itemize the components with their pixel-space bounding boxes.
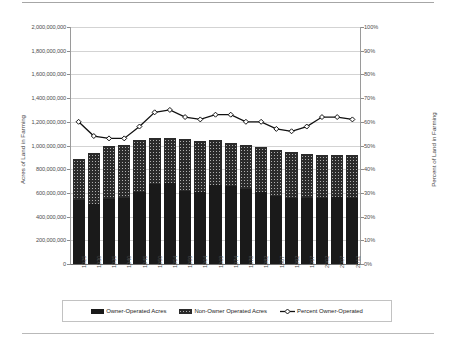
- y-axis-left-tick: 600,000,000: [36, 190, 66, 196]
- y-axis-right-tick: 70%: [364, 95, 375, 101]
- line-marker: [243, 119, 248, 124]
- line-marker: [350, 117, 355, 122]
- x-axis-tick: 1997: [309, 256, 315, 268]
- x-axis-tick: 2002: [324, 256, 330, 268]
- y-axis-right-tick-mark: [361, 146, 364, 147]
- y-axis-left: 0200,000,000400,000,000600,000,000800,00…: [0, 0, 66, 340]
- line-marker: [167, 107, 172, 112]
- x-axis-tick: 1978: [248, 256, 254, 268]
- y-axis-right: 0%10%20%30%40%50%60%70%80%90%100%: [364, 0, 424, 340]
- y-axis-left-tick: 1,000,000,000: [32, 143, 66, 149]
- y-axis-right-tick: 20%: [364, 214, 375, 220]
- x-axis-tick: 1969: [218, 256, 224, 268]
- y-axis-left-tick-mark: [67, 98, 70, 99]
- y-axis-right-title: Percent of Land in Farming: [430, 95, 437, 205]
- x-axis-tick: 1940: [126, 256, 132, 268]
- x-axis-tick: 1945: [142, 256, 148, 268]
- legend-swatch-hatched: [179, 309, 192, 314]
- line-marker: [274, 126, 279, 131]
- y-axis-left-tick: 200,000,000: [36, 237, 66, 243]
- legend-item[interactable]: Owner-Operated Acres: [91, 308, 166, 314]
- legend-label: Non-Owner Operated Acres: [194, 308, 267, 314]
- y-axis-left-tick-mark: [67, 74, 70, 75]
- x-axis-tick: 1964: [202, 256, 208, 268]
- y-axis-left-tick: 1,400,000,000: [32, 95, 66, 101]
- y-axis-right-tick-mark: [361, 74, 364, 75]
- y-axis-right-tick-mark: [361, 27, 364, 28]
- y-axis-right-tick: 90%: [364, 48, 375, 54]
- y-axis-right-tick: 80%: [364, 71, 375, 77]
- x-axis-tick: 1959: [187, 256, 193, 268]
- y-axis-left-tick-mark: [67, 217, 70, 218]
- y-axis-left-tick: 800,000,000: [36, 166, 66, 172]
- y-axis-left-tick: 1,800,000,000: [32, 48, 66, 54]
- y-axis-left-tick: 1,200,000,000: [32, 119, 66, 125]
- x-axis-tick: 2012: [355, 256, 361, 268]
- x-axis-tick: 1954: [172, 256, 178, 268]
- y-axis-right-tick-mark: [361, 122, 364, 123]
- line-marker: [213, 112, 218, 117]
- legend-item[interactable]: Non-Owner Operated Acres: [179, 308, 267, 314]
- y-axis-right-tick: 50%: [364, 143, 375, 149]
- y-axis-left-tick-mark: [67, 146, 70, 147]
- y-axis-left-tick-mark: [67, 264, 70, 265]
- x-axis-tick: 1935: [111, 256, 117, 268]
- line-marker: [183, 115, 188, 120]
- y-axis-left-tick-mark: [67, 169, 70, 170]
- y-axis-right-tick-mark: [361, 51, 364, 52]
- y-axis-right-tick: 100%: [364, 24, 378, 30]
- legend-item[interactable]: Percent Owner-Operated: [280, 308, 363, 315]
- legend-swatch-solid: [91, 309, 104, 314]
- plot-area: [71, 27, 360, 264]
- y-axis-right-tick-mark: [361, 264, 364, 265]
- y-axis-right-tick: 60%: [364, 119, 375, 125]
- y-axis-left-tick: 400,000,000: [36, 214, 66, 220]
- y-axis-right-tick-mark: [361, 98, 364, 99]
- y-axis-right-tick: 40%: [364, 166, 375, 172]
- line-marker: [289, 129, 294, 134]
- y-axis-left-tick-mark: [67, 27, 70, 28]
- y-axis-right-tick: 10%: [364, 237, 375, 243]
- y-axis-right-tick-mark: [361, 240, 364, 241]
- x-axis-tick: 1982: [263, 256, 269, 268]
- legend-items: Owner-Operated AcresNon-Owner Operated A…: [63, 301, 391, 321]
- x-axis-tick: 1930: [96, 256, 102, 268]
- y-axis-left-title: Acres of Land in Farming: [19, 95, 26, 205]
- y-axis-right-tick-mark: [361, 169, 364, 170]
- y-axis-left-tick: 0: [63, 261, 66, 267]
- x-axis-tick: 2007: [339, 256, 345, 268]
- y-axis-right-tick: 30%: [364, 190, 375, 196]
- y-axis-left-tick-mark: [67, 240, 70, 241]
- line-marker: [228, 112, 233, 117]
- x-axis-tick: 1987: [279, 256, 285, 268]
- line-marker: [198, 117, 203, 122]
- x-axis-tick: 1925: [81, 256, 87, 268]
- y-axis-left-tick: 1,600,000,000: [32, 71, 66, 77]
- line-marker: [335, 115, 340, 120]
- y-axis-left-tick: 2,000,000,000: [32, 24, 66, 30]
- y-axis-right-tick: 0%: [364, 261, 372, 267]
- y-axis-right-tick-mark: [361, 193, 364, 194]
- y-axis-right-tick-mark: [361, 217, 364, 218]
- x-axis-tick: 1950: [157, 256, 163, 268]
- y-axis-left-tick-mark: [67, 193, 70, 194]
- legend: Owner-Operated AcresNon-Owner Operated A…: [62, 300, 392, 322]
- line-marker: [259, 119, 264, 124]
- y-axis-left-tick-mark: [67, 51, 70, 52]
- x-axis-tick: 1992: [294, 256, 300, 268]
- legend-label: Owner-Operated Acres: [106, 308, 166, 314]
- line-marker: [107, 136, 112, 141]
- legend-swatch-line-marker: [280, 308, 295, 315]
- y-axis-left-tick-mark: [67, 122, 70, 123]
- line-series-group: [71, 27, 360, 264]
- legend-label: Percent Owner-Operated: [297, 308, 363, 314]
- x-axis-tick: 1974: [233, 256, 239, 268]
- chart-page: 0200,000,000400,000,000600,000,000800,00…: [0, 0, 453, 340]
